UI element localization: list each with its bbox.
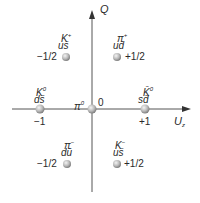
particle-pi-minus-quarks: dū (61, 148, 72, 158)
uz-axis-arrow-icon (182, 106, 191, 112)
particle-pi-plus-quarks: ud̄ (113, 41, 124, 51)
particle-k-minus-quarks: us̄ (113, 148, 124, 158)
particle-k-minus-value: +1/2 (124, 159, 144, 169)
particle-sphere-k-minus (113, 160, 121, 168)
particle-k0bar-quarks: sd̄ (138, 95, 149, 105)
particle-sphere-pi0 (88, 105, 97, 114)
particle-k0bar-value: +1 (139, 117, 150, 127)
particle-sphere-k-plus (62, 53, 70, 61)
particle-sphere-k0bar (141, 105, 150, 114)
particle-pi0-value: 0 (98, 98, 104, 108)
q-axis-label: Q (100, 3, 109, 15)
particle-pi0-name: π0 (74, 98, 84, 112)
particle-sphere-k0 (36, 105, 45, 114)
particle-pi-plus-value: +1/2 (125, 52, 145, 62)
particle-pi-minus-value: −1/2 (37, 159, 57, 169)
uz-axis-label: Uz (174, 115, 185, 128)
particle-sphere-pi-plus (113, 53, 121, 61)
particle-sphere-pi-minus (63, 160, 71, 168)
particle-k-plus-quarks: us̄ (58, 41, 69, 51)
q-axis-arrow-icon (89, 10, 95, 19)
particle-k-plus-value: −1/2 (37, 52, 57, 62)
particle-k0-value: −1 (34, 117, 45, 127)
meson-octet-diagram: Q Uz K+ us̄ −1/2 π+ ud̄ +1/2 K0 ds̄ −1 π… (0, 0, 200, 203)
particle-k0-quarks: ds̄ (34, 95, 45, 105)
